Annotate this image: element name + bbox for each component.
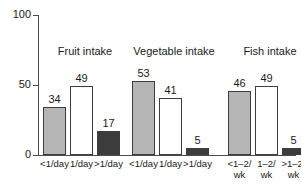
- group-title: Vegetable intake: [132, 45, 216, 57]
- group-title: Fruit intake: [43, 45, 127, 57]
- bar: [159, 98, 182, 155]
- plot-area: Fruit intake344917Vegetable intake53415F…: [38, 15, 296, 155]
- bar: [43, 107, 66, 155]
- bar-value-label: 49: [247, 73, 287, 84]
- bar-value-label: 41: [151, 85, 191, 96]
- y-axis-label-0: 0: [0, 149, 31, 160]
- x-axis-label: >1/day: [175, 158, 221, 169]
- bar-value-label: 5: [178, 135, 218, 146]
- y-axis-label-50: 50: [0, 79, 31, 90]
- bar-chart: 050100 Fruit intake344917Vegetable intak…: [0, 0, 301, 193]
- bar-value-label: 17: [89, 118, 129, 129]
- y-axis-label-100: 100: [0, 9, 31, 20]
- x-axis-label: >1–2/wk: [271, 158, 302, 180]
- bar: [186, 148, 209, 155]
- bar-value-label: 5: [274, 135, 302, 146]
- bar-group-3: Fish intake46495: [228, 15, 301, 155]
- x-axis-line: [38, 155, 296, 156]
- bar-group-2: Vegetable intake53415: [132, 15, 216, 155]
- bar: [228, 91, 251, 155]
- bar: [282, 148, 301, 155]
- group-title: Fish intake: [228, 45, 301, 57]
- bar: [97, 131, 120, 155]
- bar-value-label: 49: [62, 73, 102, 84]
- bar-value-label: 53: [124, 68, 164, 79]
- bar-value-label: 34: [35, 94, 75, 105]
- bar-group-1: Fruit intake344917: [43, 15, 127, 155]
